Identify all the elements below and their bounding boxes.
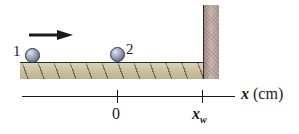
x-axis-tick-label-wall: xw <box>192 106 207 125</box>
velocity-arrow-icon <box>29 30 73 40</box>
wall <box>203 5 219 79</box>
ball-1-label: 1 <box>13 44 21 59</box>
floor-surface <box>20 62 218 79</box>
ball-1 <box>25 48 40 63</box>
x-axis-title-unit: (cm) <box>253 85 283 102</box>
physics-diagram: 1 2 0 xw x (cm) <box>0 0 299 134</box>
wall-shading <box>204 5 219 79</box>
floor-shading <box>20 63 218 79</box>
x-axis-tick-origin <box>117 90 118 103</box>
x-axis-tick-label-wall-var: x <box>192 105 200 122</box>
ball-2 <box>110 47 125 62</box>
x-axis-title-variable: x <box>241 85 249 102</box>
x-axis-title: x (cm) <box>241 86 283 102</box>
x-axis-tick-label-origin: 0 <box>112 106 120 122</box>
ball-2-label: 2 <box>126 42 134 57</box>
x-axis-tick-label-wall-sub: w <box>200 114 207 125</box>
x-axis-tick-wall <box>202 90 203 103</box>
x-axis-line <box>22 96 235 97</box>
